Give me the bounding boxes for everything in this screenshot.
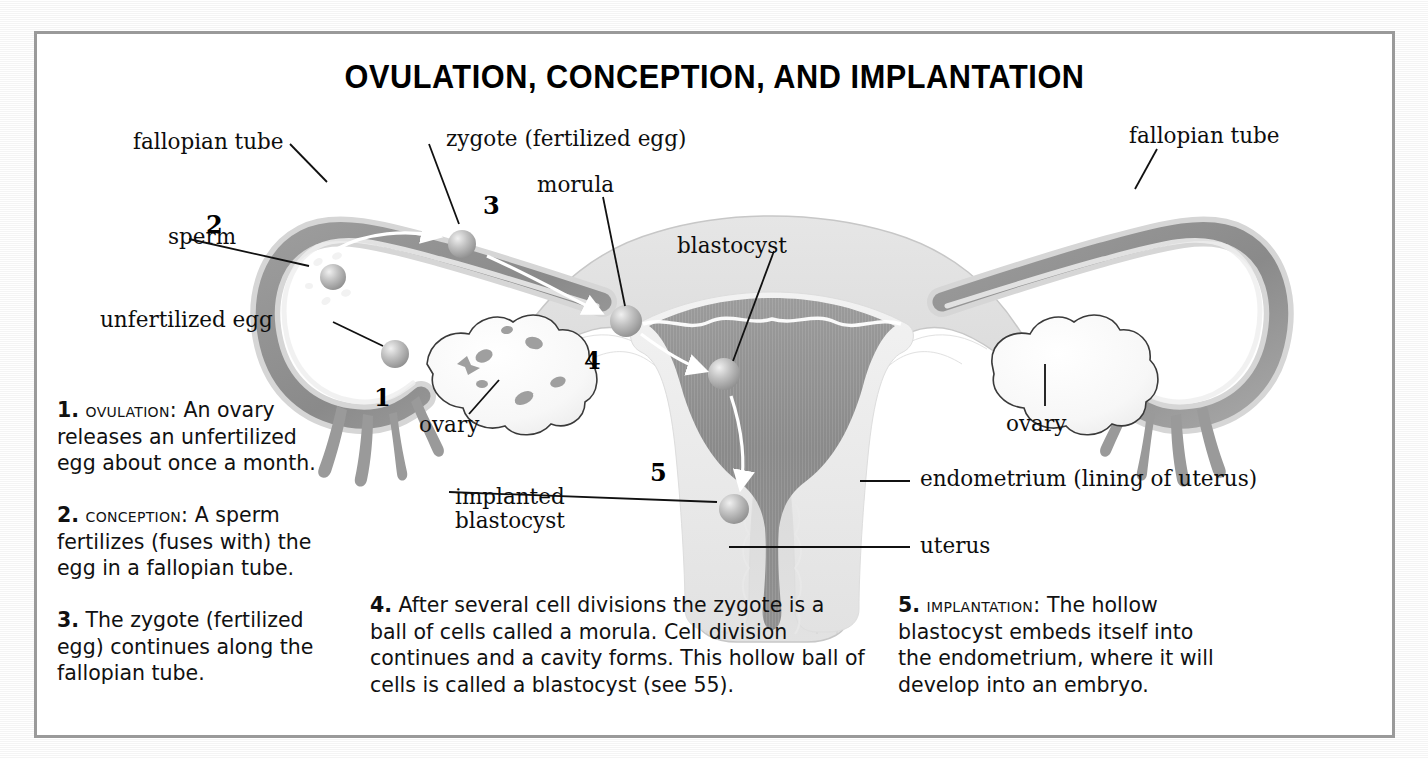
label-blastocyst: blastocyst <box>677 234 787 258</box>
label-fallopian-tube-left: fallopian tube <box>133 130 284 154</box>
path-arrows <box>329 233 743 486</box>
caption-5-heading: Implantation: <box>927 593 1041 617</box>
left-tube-wall <box>265 231 602 419</box>
leader-morula <box>603 197 625 306</box>
label-fallopian-tube-right: fallopian tube <box>1129 124 1280 148</box>
step-number-2: 2 <box>206 210 223 239</box>
step-number-5: 5 <box>650 458 667 487</box>
leader-fallopian-left <box>290 144 327 182</box>
leader-ovary-left <box>469 380 499 414</box>
label-morula: morula <box>537 173 614 197</box>
label-uterus: uterus <box>920 534 990 558</box>
caption-1: 1. Ovulation: An ovary releases an unfer… <box>57 397 333 477</box>
zygote-cell <box>448 230 476 258</box>
label-unfertilized-egg: unfertilized egg <box>100 308 273 332</box>
label-ovary-left: ovary <box>419 413 479 437</box>
left-ovary-follicles <box>457 325 567 408</box>
sperm-dots <box>305 251 352 307</box>
caption-3-number: 3. <box>57 608 79 632</box>
blastocyst-cell <box>708 358 740 390</box>
label-implanted-blastocyst: implanted blastocyst <box>455 485 595 533</box>
caption-4-number: 4. <box>370 593 392 617</box>
caption-4-text: After several cell divisions the zygote … <box>370 593 865 697</box>
arrow-egg-up <box>329 329 377 370</box>
caption-4: 4. After several cell divisions the zygo… <box>370 592 867 699</box>
label-endometrium: endometrium (lining of uterus) <box>920 467 1257 491</box>
left-tube-lumen <box>284 240 597 402</box>
conception-cell <box>320 264 346 290</box>
label-zygote: zygote (fertilized egg) <box>446 127 686 151</box>
caption-3-text: The zygote (fertilized egg) continues al… <box>57 608 313 685</box>
leader-unfertilized-egg <box>333 322 383 346</box>
page-title: OVULATION, CONCEPTION, AND IMPLANTATION <box>84 58 1344 96</box>
right-tube-wall <box>942 231 1279 419</box>
step-number-3: 3 <box>483 191 500 220</box>
diagram-page: OVULATION, CONCEPTION, AND IMPLANTATION <box>0 0 1428 759</box>
label-implanted-blastocyst-line1: implanted <box>455 484 565 509</box>
right-tube-lumen <box>947 240 1260 402</box>
label-ovary-right: ovary <box>1006 412 1066 436</box>
implanted-blastocyst-cell <box>719 494 749 524</box>
morula-cell <box>610 305 642 337</box>
arrow-to-zygote <box>337 233 437 249</box>
unfertilized-egg-cell <box>381 340 409 368</box>
label-implanted-blastocyst-line2: blastocyst <box>455 508 565 533</box>
right-tube-sheath <box>942 231 1279 419</box>
caption-1-heading: Ovulation: <box>86 398 177 422</box>
caption-2-number: 2. <box>57 503 79 527</box>
arrow-to-blastocyst <box>641 334 703 370</box>
caption-1-number: 1. <box>57 398 79 422</box>
label-sperm: sperm <box>168 225 236 249</box>
caption-2: 2. Conception: A sperm fertilizes (fuses… <box>57 502 343 582</box>
arrow-to-morula <box>487 256 599 312</box>
leader-zygote <box>429 144 459 224</box>
uterine-cavity <box>649 298 895 630</box>
leader-blastocyst <box>733 251 774 361</box>
diagram-frame: OVULATION, CONCEPTION, AND IMPLANTATION <box>34 31 1395 738</box>
endometrium-layer <box>631 292 914 632</box>
cavity-texture <box>649 298 895 630</box>
caption-5-number: 5. <box>898 593 920 617</box>
uterus-outline <box>519 216 1024 642</box>
step-number-1: 1 <box>374 383 391 412</box>
caption-5: 5. Implantation: The hollow blastocyst e… <box>898 592 1228 699</box>
left-tube-sheath <box>265 231 602 419</box>
cavity-lining-edge <box>643 318 901 325</box>
leader-fallopian-right <box>1135 149 1157 189</box>
step-number-4: 4 <box>584 346 601 375</box>
caption-3: 3. The zygote (fertilized egg) continues… <box>57 607 343 687</box>
arrow-to-implant <box>731 396 743 486</box>
caption-2-heading: Conception: <box>86 503 189 527</box>
